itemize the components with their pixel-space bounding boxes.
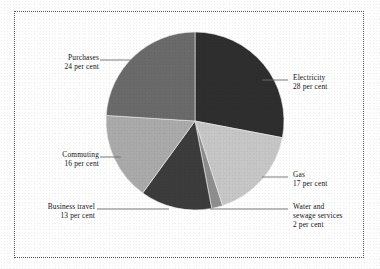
chart-area: Purchases 24 per cent Commuting 16 per c… <box>0 0 380 269</box>
label-business-travel-name: Business travel <box>48 202 95 211</box>
label-water-sewage-value: 2 per cent <box>293 220 343 229</box>
label-electricity-value: 28 per cent <box>293 82 327 91</box>
label-business-travel: Business travel 13 per cent <box>48 202 95 220</box>
pie-slice-group <box>106 32 284 210</box>
label-water-sewage-line1: Water and <box>293 202 343 211</box>
label-commuting: Commuting 16 per cent <box>62 150 99 168</box>
label-gas: Gas 17 per cent <box>293 170 327 188</box>
label-business-travel-value: 13 per cent <box>48 211 95 220</box>
label-purchases-name: Purchases <box>65 53 99 62</box>
label-commuting-name: Commuting <box>62 150 99 159</box>
label-gas-value: 17 per cent <box>293 179 327 188</box>
label-electricity: Electricity 28 per cent <box>293 73 327 91</box>
label-purchases: Purchases 24 per cent <box>65 53 99 71</box>
label-water-sewage: Water and sewage services 2 per cent <box>293 202 343 230</box>
label-gas-name: Gas <box>293 170 327 179</box>
pie-slice-electricity <box>195 32 284 138</box>
pie-slice-purchases <box>106 32 195 121</box>
label-electricity-name: Electricity <box>293 73 327 82</box>
label-water-sewage-line2: sewage services <box>293 211 343 220</box>
label-purchases-value: 24 per cent <box>65 62 99 71</box>
pie-chart-figure: Purchases 24 per cent Commuting 16 per c… <box>0 0 380 269</box>
label-commuting-value: 16 per cent <box>62 159 99 168</box>
